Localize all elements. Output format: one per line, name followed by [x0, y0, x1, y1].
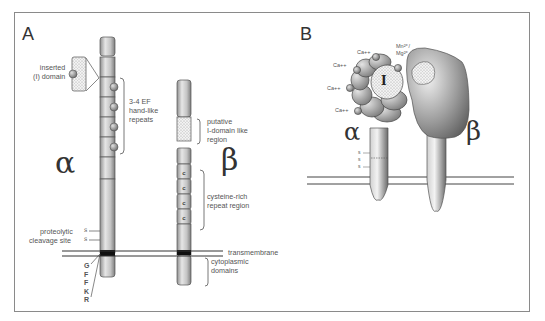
- putative-label: putative I-domain like region: [207, 117, 248, 144]
- ca-label-1: Ca++: [357, 48, 370, 57]
- ca-label-4: Ca++: [335, 106, 348, 115]
- diagram-graphics: [0, 0, 545, 321]
- alpha-chain: [100, 37, 118, 277]
- panel-b-letter: B: [300, 24, 312, 45]
- alpha-symbol-b: α: [344, 118, 360, 146]
- ca-label-3: Ca++: [327, 84, 340, 93]
- alpha-symbol-a: α: [55, 145, 75, 180]
- transmembrane-label: transmembrane: [228, 248, 278, 257]
- alpha-propeller: [346, 53, 407, 122]
- ef-hand-label: 3-4 EF hand-like repeats: [129, 97, 158, 124]
- membrane-a: [62, 251, 223, 256]
- s-marks-b: s s s: [358, 149, 361, 170]
- c-repeats: c c c c: [180, 166, 188, 226]
- ef-bracket: [120, 78, 124, 154]
- proteolytic-label: proteolytic: [40, 227, 73, 236]
- ca-label-2: Ca++: [333, 61, 346, 70]
- inserted-domain: [69, 57, 99, 91]
- cleavage-site-label: cleavage site: [29, 236, 71, 245]
- s-mark-2: s: [84, 235, 87, 244]
- cytoplasmic-label: cytoplasmic domains: [211, 257, 249, 275]
- s-mark-1: s: [84, 226, 87, 235]
- beta-symbol-b: β: [466, 116, 481, 146]
- beta-head: [407, 48, 469, 138]
- beta-symbol-a: β: [221, 142, 238, 177]
- inserted-domain-label: inserted (I) domain: [33, 63, 65, 81]
- cysteine-label: cysteine-rich repeat region: [207, 192, 249, 210]
- membrane-b: [307, 177, 514, 184]
- i-domain-label: I: [381, 74, 387, 88]
- gffkr-motif: G F F K R: [84, 262, 89, 305]
- alpha-stalk: [370, 128, 388, 200]
- mn-mg-label: Mn²⁺/ Mg²⁺: [396, 43, 410, 57]
- panel-a-letter: A: [22, 24, 34, 45]
